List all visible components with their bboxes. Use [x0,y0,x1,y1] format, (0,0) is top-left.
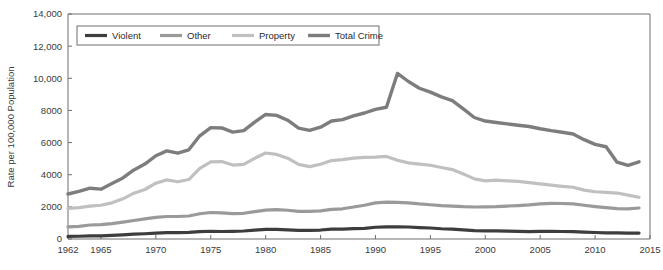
y-tick-label: 10,000 [33,73,62,84]
y-axis-title: Rate per 100,000 Population [5,67,16,188]
x-axis-ticks: 1962196519701975198019851990199520002005… [57,235,660,255]
legend-label-violent: Violent [112,30,141,41]
series-line-total-crime [68,73,639,194]
series-line-violent [68,227,639,237]
series-line-property [68,153,639,208]
x-tick-label: 1970 [145,244,166,255]
x-tick-label: 1985 [310,244,331,255]
legend-label-total-crime: Total Crime [335,30,383,41]
chart-legend: ViolentOtherPropertyTotal Crime [77,26,383,45]
y-tick-label: 2000 [41,201,62,212]
y-axis-ticks: 0200040006000800010,00012,00014,000 [33,8,72,244]
x-tick-label: 1990 [365,244,386,255]
y-tick-label: 4000 [41,169,62,180]
crime-rate-line-chart: Rate per 100,000 Population 020004000600… [0,0,663,270]
legend-label-property: Property [259,30,295,41]
x-tick-label: 2015 [639,244,660,255]
chart-canvas: Rate per 100,000 Population 020004000600… [0,0,663,270]
legend-label-other: Other [187,30,211,41]
data-series-group [68,73,639,236]
y-tick-label: 8000 [41,105,62,116]
y-axis-title-group: Rate per 100,000 Population [5,67,16,188]
series-line-other [68,202,639,227]
y-tick-label: 14,000 [33,8,62,19]
y-tick-label: 12,000 [33,41,62,52]
x-tick-label: 1962 [57,244,78,255]
x-tick-label: 1980 [255,244,276,255]
x-tick-label: 2000 [475,244,496,255]
x-tick-label: 2010 [585,244,606,255]
y-tick-label: 0 [57,233,62,244]
x-tick-label: 2005 [530,244,551,255]
x-tick-label: 1965 [90,244,111,255]
y-tick-label: 6000 [41,137,62,148]
x-tick-label: 1995 [420,244,441,255]
x-tick-label: 1975 [200,244,221,255]
